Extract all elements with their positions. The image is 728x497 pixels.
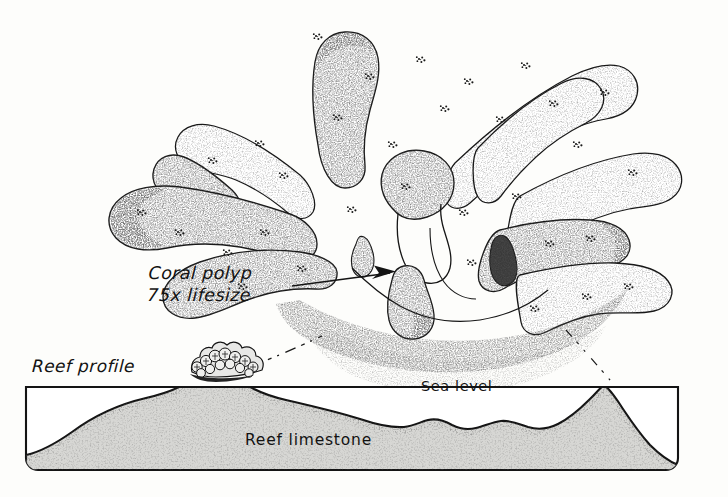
magnified-coral-polyp bbox=[109, 32, 682, 393]
coral-colony-on-reef-crest bbox=[190, 342, 263, 382]
sea-level-label: Sea level bbox=[421, 378, 493, 394]
illustration-page: Coral polyp75x lifesize Reef profile Sea… bbox=[0, 0, 728, 497]
coral-polyp-reef-illustration bbox=[0, 0, 728, 497]
coral-polyp-caption: Coral polyp75x lifesize bbox=[147, 262, 253, 306]
reef-limestone-label: Reef limestone bbox=[245, 431, 372, 449]
coral-polyp-caption-line2: 75x lifesize bbox=[147, 285, 252, 305]
coral-polyp-caption-line1: Coral polyp bbox=[148, 263, 253, 283]
reef-profile-label: Reef profile bbox=[31, 356, 135, 376]
